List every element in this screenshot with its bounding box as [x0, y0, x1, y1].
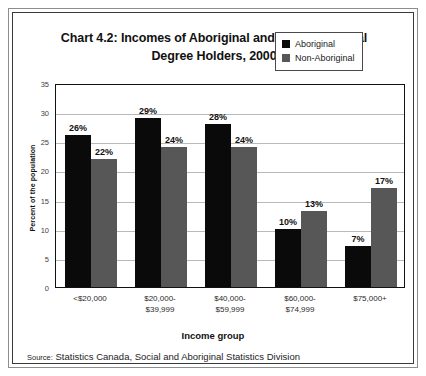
y-axis-tick: 10	[23, 225, 49, 234]
y-axis-tick: 20	[23, 167, 49, 176]
chart-legend: AboriginalNon-Aboriginal	[275, 32, 363, 71]
bar-value-label: 17%	[375, 176, 393, 186]
y-axis-tick: 5	[23, 254, 49, 263]
bar-value-label: 26%	[69, 123, 87, 133]
bar[interactable]: 22%	[91, 159, 117, 287]
bar-value-label: 10%	[279, 217, 297, 227]
bar[interactable]: 26%	[65, 135, 91, 287]
bar-value-label: 29%	[139, 106, 157, 116]
y-axis-label: Percent of the population	[29, 108, 36, 268]
chart-figure-inner-border: Chart 4.2: Incomes of Aboriginal and Non…	[12, 12, 414, 364]
bar[interactable]: 28%	[205, 124, 231, 287]
legend-label: Non-Aboriginal	[295, 53, 355, 63]
bar[interactable]: 29%	[135, 118, 161, 287]
bar-value-label: 22%	[95, 147, 113, 157]
y-axis-tick: 25	[23, 138, 49, 147]
bar-group: 10%13%	[275, 85, 327, 287]
y-axis-tick: 35	[23, 80, 49, 89]
bar[interactable]: 17%	[371, 188, 397, 287]
source-prefix: Source:	[27, 353, 53, 362]
bar-group: 7%17%	[345, 85, 397, 287]
x-axis-tick-line: $74,999	[255, 305, 345, 316]
bar[interactable]: 24%	[161, 147, 187, 287]
bar-value-label: 13%	[305, 199, 323, 209]
source-text: Statistics Canada, Social and Aboriginal…	[56, 351, 300, 362]
bar-value-label: 28%	[209, 112, 227, 122]
legend-item[interactable]: Aboriginal	[282, 37, 355, 51]
chart-figure: Chart 4.2: Incomes of Aboriginal and Non…	[8, 8, 418, 368]
bar-value-label: 7%	[351, 234, 364, 244]
x-axis-tick-line: $75,000+	[325, 294, 415, 305]
legend-swatch-icon	[282, 54, 290, 62]
bar-value-label: 24%	[165, 135, 183, 145]
bar-group: 29%24%	[135, 85, 187, 287]
x-axis-tick: $75,000+	[325, 294, 415, 305]
legend-swatch-icon	[282, 40, 290, 48]
legend-item[interactable]: Non-Aboriginal	[282, 51, 355, 65]
bar-value-label: 24%	[235, 135, 253, 145]
bar[interactable]: 24%	[231, 147, 257, 287]
legend-label: Aboriginal	[295, 39, 335, 49]
bar-group: 28%24%	[205, 85, 257, 287]
x-axis-label: Income group	[13, 330, 413, 341]
bar[interactable]: 7%	[345, 246, 371, 287]
bar[interactable]: 13%	[301, 211, 327, 287]
bar[interactable]: 10%	[275, 229, 301, 287]
source-note: Source: Statistics Canada, Social and Ab…	[27, 351, 300, 362]
y-axis-tick: 30	[23, 109, 49, 118]
y-axis-tick: 0	[23, 284, 49, 293]
y-axis-tick: 15	[23, 196, 49, 205]
bar-group: 26%22%	[65, 85, 117, 287]
plot-area: 26%22%29%24%28%24%10%13%7%17%	[55, 84, 405, 288]
